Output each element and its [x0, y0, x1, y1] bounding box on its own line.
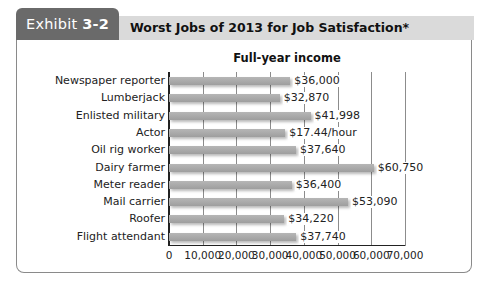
x-axis-line	[168, 245, 405, 247]
data-label: $32,870	[283, 92, 331, 104]
bar	[169, 94, 280, 102]
gridline	[371, 72, 372, 246]
category-label: Mail carrier	[103, 196, 165, 208]
x-tick-label: 10,000	[184, 249, 221, 261]
bar	[169, 129, 285, 137]
x-tick-label: 50,000	[319, 249, 356, 261]
exhibit-title: Worst Jobs of 2013 for Job Satisfaction*	[130, 16, 409, 40]
category-label: Oil rig worker	[91, 144, 165, 156]
bar	[169, 164, 374, 172]
data-label: $36,000	[293, 75, 341, 87]
chart-title: Full-year income	[169, 51, 405, 65]
category-label: Newspaper reporter	[55, 75, 165, 87]
gridline	[405, 72, 406, 246]
bar	[169, 112, 311, 120]
category-label: Dairy farmer	[95, 162, 165, 174]
bar	[169, 215, 284, 223]
x-tick-label: 0	[166, 249, 173, 261]
exhibit-prefix: Exhibit	[26, 16, 77, 32]
exhibit-tab: Exhibit 3-2	[16, 8, 119, 40]
x-tick-label: 20,000	[218, 249, 255, 261]
data-label: $36,400	[295, 179, 343, 191]
bar	[169, 77, 290, 85]
category-label: Meter reader	[94, 179, 165, 191]
data-label: $17.44/hour	[288, 127, 357, 139]
x-tick-label: 40,000	[285, 249, 322, 261]
gridline	[338, 72, 339, 246]
category-label: Lumberjack	[101, 92, 165, 104]
x-tick-label: 60,000	[353, 249, 390, 261]
category-label: Flight attendant	[77, 231, 165, 243]
data-label: $34,220	[287, 213, 335, 225]
category-label: Enlisted military	[76, 110, 165, 122]
data-label: $41,998	[314, 110, 362, 122]
exhibit-number: 3-2	[82, 16, 109, 32]
category-label: Roofer	[129, 213, 165, 225]
data-label: $37,640	[299, 144, 347, 156]
data-label: $37,740	[299, 231, 347, 243]
bar	[169, 146, 296, 154]
bar	[169, 198, 348, 206]
bar	[169, 233, 296, 241]
data-label: $60,750	[377, 162, 425, 174]
x-tick-label: 70,000	[387, 249, 424, 261]
category-label: Actor	[136, 127, 165, 139]
data-label: $53,090	[351, 196, 399, 208]
title-bar: Worst Jobs of 2013 for Job Satisfaction*	[119, 16, 474, 40]
bar	[169, 181, 292, 189]
x-tick-label: 30,000	[252, 249, 289, 261]
